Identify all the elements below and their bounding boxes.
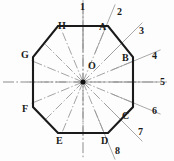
vertex-label-G: G [21, 50, 29, 60]
ray-number-label-2: 2 [117, 7, 122, 17]
center-point-label: O [88, 61, 96, 71]
ray-number-label-7: 7 [138, 127, 143, 137]
ray-number-label-3: 3 [139, 26, 144, 36]
vertex-label-C: C [122, 111, 129, 121]
ray-number-label-1: 1 [80, 2, 85, 12]
center-point-marker [80, 79, 85, 84]
vertex-label-H: H [58, 21, 66, 31]
vertex-label-B: B [122, 53, 129, 63]
ray-number-label-5: 5 [160, 77, 165, 87]
vertex-label-A: A [99, 22, 106, 32]
numbered-rays-group [83, 0, 167, 160]
ray-number-label-6: 6 [152, 106, 157, 116]
octagon-diagram-figure: ABCDEFGH12345678O [0, 0, 174, 161]
vertex-label-F: F [22, 104, 28, 114]
radial-centerline [43, 42, 83, 82]
ray-number-label-4: 4 [152, 51, 157, 61]
vertex-label-E: E [56, 136, 63, 146]
ray-number-label-8: 8 [115, 146, 120, 156]
vertex-label-D: D [101, 136, 108, 146]
radial-centerline [43, 82, 83, 122]
diagram-canvas [0, 0, 174, 161]
